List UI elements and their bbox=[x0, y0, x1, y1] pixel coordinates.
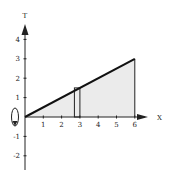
x-tick-label: 4 bbox=[96, 121, 101, 129]
chart: 123456 -2-11234 X T bbox=[0, 0, 172, 180]
y-axis-label: T bbox=[23, 12, 28, 20]
y-axis-arrow-icon bbox=[22, 24, 29, 35]
x-ticks: 123456 bbox=[41, 116, 138, 130]
x-tick-label: 5 bbox=[114, 121, 118, 129]
y-tick-label: 1 bbox=[16, 94, 20, 102]
y-tick-label: 3 bbox=[16, 55, 20, 63]
y-tick-label: -1 bbox=[13, 133, 20, 141]
y-tick-label: 4 bbox=[16, 36, 21, 44]
rotation-arrow-icon bbox=[12, 108, 19, 126]
x-tick-label: 1 bbox=[41, 121, 45, 129]
x-axis-arrow-icon bbox=[137, 114, 148, 120]
x-axis-label: X bbox=[157, 114, 162, 122]
y-tick-label: -2 bbox=[13, 152, 20, 160]
x-tick-label: 6 bbox=[133, 121, 138, 129]
x-tick-label: 3 bbox=[78, 121, 82, 129]
y-tick-label: 2 bbox=[16, 75, 20, 83]
x-tick-label: 2 bbox=[59, 121, 63, 129]
